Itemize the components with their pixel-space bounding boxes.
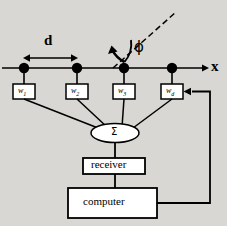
weight-label-2: w2 [71,87,79,97]
angle-label: ϕ [134,38,144,56]
receiver-label: receiver [91,158,126,170]
spacing-label: d [44,32,52,49]
weight-sub-3: 3 [123,91,126,97]
figure-canvas: d ϕ x Σ receiver computer w1 w2 w3 wd [0,0,227,226]
axis-label-x: x [211,58,219,75]
x-axis [2,65,209,72]
weight-label-1: w1 [18,87,26,97]
weight-sub-1: 1 [23,91,26,97]
angle-arc [108,40,131,62]
spacing-arrow [23,54,78,62]
computer-label: computer [83,195,125,207]
sum-input-line-1 [24,99,98,128]
sum-input-line-3 [122,99,124,127]
weight-label-4: wd [166,87,174,97]
sum-input-line-2 [77,99,107,127]
sum-input-line-4 [133,99,172,128]
weight-label-3: w3 [118,87,126,97]
diagram-svg [0,0,227,226]
weight-sub-4: d [171,91,174,97]
weight-sub-2: 2 [76,91,79,97]
sigma-label: Σ [111,126,117,137]
